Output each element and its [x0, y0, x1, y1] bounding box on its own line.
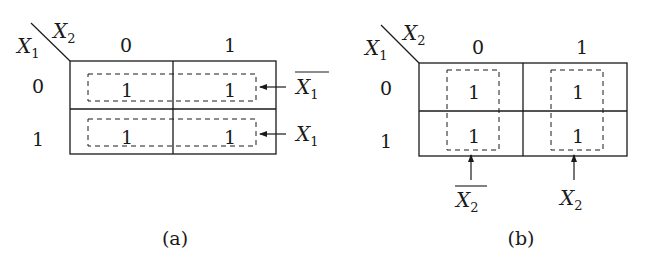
caption-b: (b) [508, 227, 535, 249]
kmap-panel-a: X2 X1 0 1 0 1 1 1 1 1 X1 X1 (a) [15, 19, 329, 249]
col-header-1: 1 [224, 34, 236, 56]
cell-r1-c0: 1 [121, 126, 133, 148]
col-header-0: 0 [120, 34, 132, 56]
cell-r0-c1: 1 [224, 79, 236, 101]
svg-text:X2: X2 [454, 188, 479, 215]
cell-r0-c0: 1 [468, 81, 480, 103]
cell-r1-c0: 1 [468, 125, 480, 147]
grouping-label-x2: X2 [558, 186, 583, 213]
cell-r1-c1: 1 [572, 125, 584, 147]
row-header-1: 1 [380, 130, 392, 152]
grouping-label-x1: X1 [294, 122, 319, 149]
row-variable-label: X1 [363, 36, 388, 63]
col-header-0: 0 [472, 36, 484, 58]
col-variable-label: X2 [51, 19, 76, 46]
col-header-1: 1 [576, 36, 588, 58]
cell-r1-c1: 1 [224, 126, 236, 148]
cell-r0-c1: 1 [572, 81, 584, 103]
svg-text:X1: X1 [294, 75, 319, 102]
grouping-label-not-x1: X1 [294, 72, 329, 102]
grouping-label-not-x2: X2 [454, 186, 487, 215]
caption-a: (a) [162, 227, 188, 249]
kmap-panel-b: X2 X1 0 1 0 1 1 1 1 1 X2 X2 (b) [363, 21, 627, 249]
cell-r0-c0: 1 [121, 79, 133, 101]
karnaugh-map-figure: X2 X1 0 1 0 1 1 1 1 1 X1 X1 (a) [0, 0, 652, 269]
row-variable-label: X1 [15, 34, 40, 61]
row-header-0: 0 [380, 77, 392, 99]
col-variable-label: X2 [401, 21, 426, 48]
row-header-1: 1 [32, 128, 44, 150]
row-header-0: 0 [32, 75, 44, 97]
